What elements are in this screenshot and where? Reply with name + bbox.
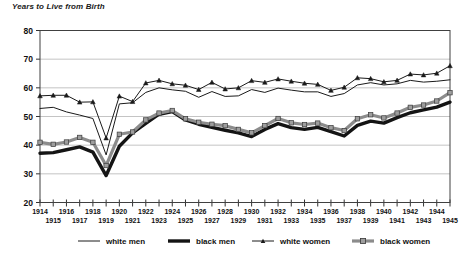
legend-label: black women (380, 237, 430, 246)
y-axis-tick-label: 40 (24, 140, 34, 150)
x-axis-tick-label: 1919 (98, 217, 114, 224)
legend-item-black-women[interactable]: black women (352, 237, 430, 246)
chart-legend: white menblack menwhite womenblack women (78, 237, 430, 246)
x-axis-tick-label: 1944 (429, 208, 445, 215)
legend-label: black men (196, 237, 235, 246)
x-axis-tick-label: 1928 (217, 208, 233, 215)
x-axis-tick-label: 1924 (164, 208, 180, 215)
data-point-marker (197, 120, 201, 124)
data-point-marker (210, 122, 214, 126)
data-point-marker (51, 142, 55, 146)
data-point-marker (91, 140, 95, 144)
data-point-marker (170, 108, 174, 112)
data-point-marker (395, 111, 399, 115)
legend-item-white-men[interactable]: white men (78, 237, 145, 246)
x-axis-tick-label: 1927 (204, 217, 220, 224)
x-axis-tick-label: 1938 (350, 208, 366, 215)
x-axis-tick-label: 1923 (151, 217, 167, 224)
life-expectancy-line-chart: 20304050607080 1914191519161917191819191… (0, 0, 472, 261)
data-point-marker (183, 117, 187, 121)
x-axis-tick-label: 1929 (231, 217, 247, 224)
y-axis-tick-label: 30 (24, 169, 34, 179)
x-axis-tick-label: 1917 (72, 217, 88, 224)
data-point-marker (77, 135, 81, 139)
x-axis-tick-label: 1933 (284, 217, 300, 224)
x-axis-tick-label: 1939 (363, 217, 379, 224)
legend-label: white men (105, 237, 145, 246)
x-axis-tick-label: 1926 (191, 208, 207, 215)
data-point-marker (448, 91, 452, 95)
y-axis-tick-label: 50 (24, 112, 34, 122)
data-point-marker (117, 132, 121, 136)
x-axis-tick-label: 1936 (323, 208, 339, 215)
data-point-marker (144, 118, 148, 122)
y-axis-tick-labels: 20304050607080 (24, 26, 34, 208)
x-axis-tick-labels: 1914191519161917191819191920192119221923… (32, 208, 458, 224)
x-axis-tick-label: 1943 (416, 217, 432, 224)
data-point-marker (382, 116, 386, 120)
x-axis-tick-label: 1937 (336, 217, 352, 224)
y-axis-tick-label: 20 (24, 198, 34, 208)
data-point-marker (368, 113, 372, 117)
x-axis-tick-label: 1940 (376, 208, 392, 215)
data-point-marker (64, 140, 68, 144)
x-axis-tick-label: 1914 (32, 208, 48, 215)
data-point-marker (130, 130, 134, 134)
legend-marker (360, 238, 365, 243)
legend-item-white-women[interactable]: white women (252, 237, 330, 246)
x-axis-tick-label: 1915 (45, 217, 61, 224)
data-point-marker (249, 131, 253, 135)
x-axis-tick-label: 1920 (112, 208, 128, 215)
data-point-marker (157, 111, 161, 115)
chart-container: Years to Live from Birth 20304050607080 … (0, 0, 472, 261)
x-axis-tick-label: 1934 (297, 208, 313, 215)
data-point-marker (104, 163, 108, 167)
x-axis-tick-label: 1945 (442, 217, 458, 224)
x-axis-tick-label: 1918 (85, 208, 101, 215)
data-point-marker (276, 116, 280, 120)
data-point-marker (316, 121, 320, 125)
data-point-marker (263, 123, 267, 127)
y-axis-tick-label: 80 (24, 26, 34, 36)
data-point-marker (355, 117, 359, 121)
data-point-marker (342, 128, 346, 132)
x-axis-tick-label: 1931 (257, 217, 273, 224)
data-point-marker (302, 122, 306, 126)
legend-item-black-men[interactable]: black men (168, 237, 235, 246)
chart-title: Years to Live from Birth (12, 2, 105, 11)
data-point-marker (435, 99, 439, 103)
x-axis-tick-label: 1930 (244, 208, 260, 215)
data-point-marker (236, 127, 240, 131)
data-point-marker (289, 121, 293, 125)
x-axis-tick-label: 1932 (270, 208, 286, 215)
y-axis-tick-label: 70 (24, 54, 34, 64)
x-axis-tick-label: 1916 (59, 208, 75, 215)
x-axis-tick-label: 1935 (310, 217, 326, 224)
data-point-marker (421, 103, 425, 107)
x-axis-tick-label: 1922 (138, 208, 154, 215)
data-point-marker (223, 123, 227, 127)
x-axis-tick-label: 1941 (389, 217, 405, 224)
legend-label: white women (279, 237, 330, 246)
data-point-marker (38, 140, 42, 144)
data-point-marker (329, 125, 333, 129)
data-point-marker (408, 105, 412, 109)
y-axis-tick-label: 60 (24, 83, 34, 93)
x-axis-tick-label: 1942 (403, 208, 419, 215)
x-axis-tick-label: 1921 (125, 217, 141, 224)
x-axis-tick-label: 1925 (178, 217, 194, 224)
